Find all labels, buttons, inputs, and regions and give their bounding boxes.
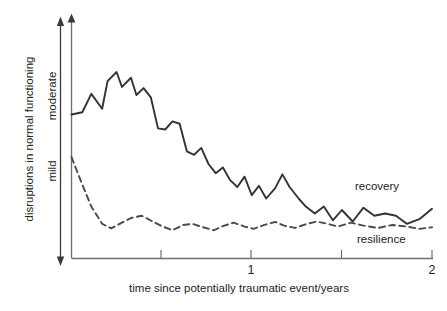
y-category-label-moderate: moderate bbox=[46, 72, 58, 121]
y-category-label-mild: mild bbox=[46, 160, 58, 181]
x-axis-title: time since potentially traumatic event/y… bbox=[129, 282, 349, 294]
y-axis-title: disruptions in normal functioning bbox=[23, 57, 35, 222]
series-label-resilience: resilience bbox=[357, 233, 406, 245]
series-label-recovery: recovery bbox=[355, 180, 399, 192]
plot-background bbox=[0, 0, 447, 311]
x-tick-label-1: 1 bbox=[248, 263, 255, 277]
x-tick-label-2: 2 bbox=[429, 263, 436, 277]
chart-figure: 1 2 time since potentially traumatic eve… bbox=[0, 0, 447, 311]
